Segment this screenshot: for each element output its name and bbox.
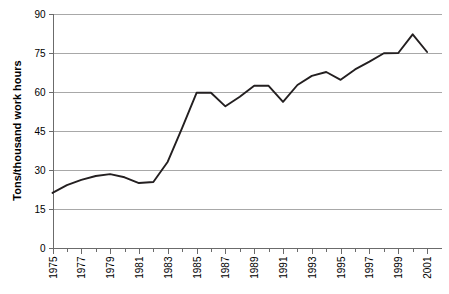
x-tick-label: 1985 <box>192 256 203 279</box>
y-tick-label: 0 <box>40 243 46 254</box>
data-series-line <box>53 34 428 193</box>
chart-canvas: 0153045607590197519771979198119831985198… <box>0 0 449 294</box>
x-tick-label: 1999 <box>393 256 404 279</box>
x-tick-label: 1977 <box>76 256 87 279</box>
x-tick-label: 1983 <box>163 256 174 279</box>
x-tick-label: 1993 <box>307 256 318 279</box>
x-tick-label: 1979 <box>105 256 116 279</box>
y-tick-label: 90 <box>34 9 46 20</box>
x-tick-label: 1995 <box>336 256 347 279</box>
x-tick-label: 1991 <box>278 256 289 279</box>
y-gridlines-group: 0153045607590 <box>34 9 441 254</box>
y-tick-label: 30 <box>34 165 46 176</box>
x-tick-label: 1987 <box>220 256 231 279</box>
x-tick-label: 2001 <box>422 256 433 279</box>
y-tick-label: 75 <box>34 48 46 59</box>
y-tick-label: 15 <box>34 204 46 215</box>
x-tick-label: 1989 <box>249 256 260 279</box>
line-chart-figure: 0153045607590197519771979198119831985198… <box>0 0 449 294</box>
y-tick-label: 45 <box>34 126 46 137</box>
x-axis-group: 1975197719791981198319851987198919911993… <box>48 249 433 279</box>
x-tick-label: 1975 <box>48 256 59 279</box>
x-tick-label: 1997 <box>364 256 375 279</box>
y-tick-label: 60 <box>34 87 46 98</box>
y-axis-title: Tons/thousand work hours <box>11 60 23 200</box>
x-tick-label: 1981 <box>134 256 145 279</box>
